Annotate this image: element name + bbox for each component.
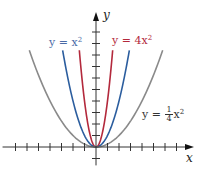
label-y-equals-quarter-x-squared: y = 14x2 (142, 106, 184, 123)
label-text: y = (142, 108, 164, 121)
parabola-chart (0, 0, 199, 176)
axes-group (3, 12, 194, 165)
y-axis-label: y (103, 9, 110, 21)
label-y-equals-x-squared: y = x2 (49, 37, 82, 48)
fraction-denominator: 4 (166, 115, 171, 123)
label-exponent: 2 (180, 108, 184, 116)
y-axis-arrow-icon (93, 12, 99, 21)
fraction-one-quarter: 14 (165, 106, 172, 123)
label-y-equals-4x-squared: y = 4x2 (112, 35, 152, 46)
x-axis-arrow-icon (185, 144, 194, 150)
label-text: y = x (49, 36, 78, 49)
x-axis-label: x (186, 152, 193, 164)
label-exponent: 2 (78, 36, 82, 44)
label-text: y = 4x (112, 34, 148, 47)
label-exponent: 2 (148, 34, 152, 42)
